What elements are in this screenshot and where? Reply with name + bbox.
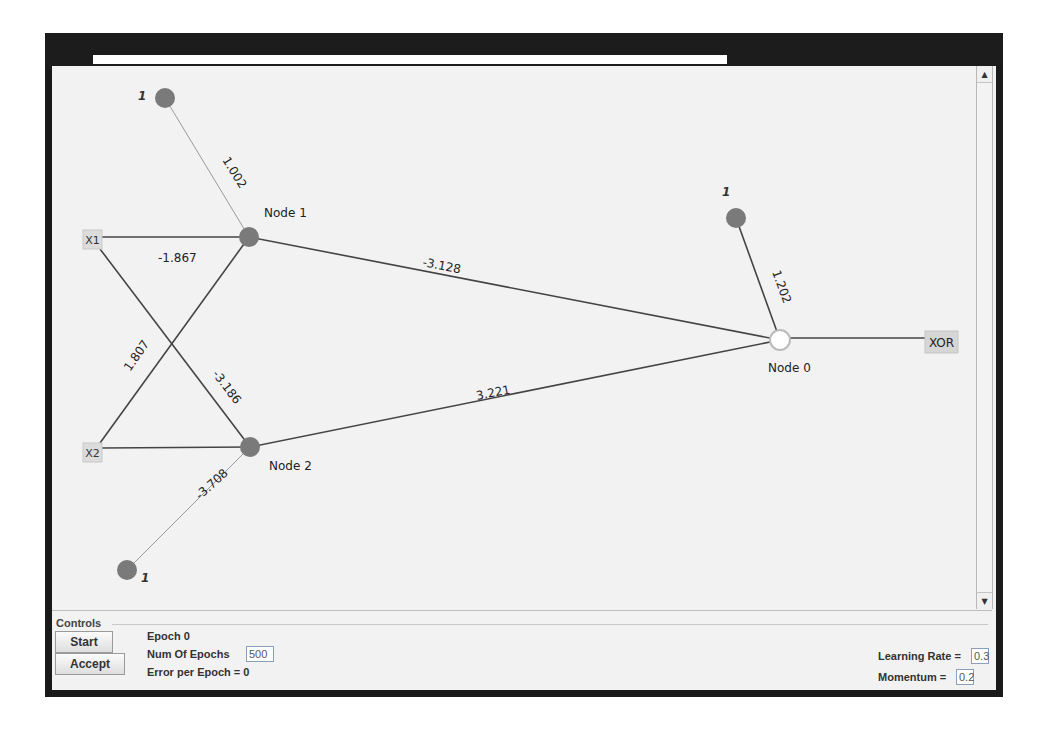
bias-node-bias1[interactable] [155, 88, 175, 108]
start-button[interactable]: Start [55, 631, 113, 653]
edge-x1-node2 [100, 249, 250, 447]
input-label: X2 [85, 447, 100, 460]
weight-label: -1.867 [158, 251, 197, 265]
learning-rate-input[interactable]: 0.3 [971, 648, 989, 664]
edge-node2-node0 [250, 340, 780, 447]
accept-button[interactable]: Accept [55, 653, 125, 675]
controls-title: Controls [56, 617, 104, 629]
bias-label: 1 [138, 89, 146, 103]
weight-label: 3.221 [475, 383, 511, 403]
momentum-label: Momentum = [878, 671, 946, 683]
weight-label: 1.202 [769, 268, 794, 305]
weight-label: 1.807 [121, 338, 152, 374]
title-bar[interactable] [45, 33, 1003, 66]
scroll-down-arrow-icon[interactable]: ▼ [977, 592, 992, 609]
bias-node-bias0[interactable] [726, 208, 746, 228]
weight-label: -3.128 [421, 255, 462, 276]
momentum-input[interactable]: 0.2 [956, 669, 974, 685]
edge-bias2-node2 [127, 447, 250, 570]
network-canvas: 1.002-1.867-3.1861.807-3.708-3.1283.2211… [52, 66, 976, 609]
edge-x2-node2 [102, 447, 250, 448]
app-window: 1.002-1.867-3.1861.807-3.708-3.1283.2211… [45, 33, 1003, 697]
group-border [112, 624, 988, 625]
network-diagram: 1.002-1.867-3.1861.807-3.708-3.1283.2211… [52, 66, 976, 609]
neuron-node2[interactable] [240, 437, 260, 457]
input-label: X1 [85, 234, 100, 247]
edge-node1-node0 [249, 237, 780, 340]
weight-label: -3.708 [193, 466, 231, 502]
bias-label: 1 [722, 185, 730, 199]
neuron-node0[interactable] [770, 330, 790, 350]
content-pane: 1.002-1.867-3.1861.807-3.708-3.1283.2211… [52, 66, 996, 690]
output-label: XOR [929, 336, 954, 350]
scroll-up-arrow-icon[interactable]: ▲ [977, 66, 992, 83]
bias-label: 1 [141, 571, 149, 585]
neuron-node1[interactable] [239, 227, 259, 247]
num-epochs-input[interactable]: 500 [246, 646, 274, 662]
error-per-epoch-label: Error per Epoch = 0 [147, 666, 249, 678]
neuron-label: Node 0 [768, 361, 811, 375]
learning-rate-label: Learning Rate = [878, 650, 961, 662]
weight-label: 1.002 [219, 154, 249, 191]
bias-node-bias2[interactable] [117, 560, 137, 580]
divider [52, 610, 992, 611]
epoch-label: Epoch 0 [147, 630, 190, 642]
neuron-label: Node 1 [264, 206, 307, 220]
title-text-area [93, 55, 727, 64]
num-epochs-label: Num Of Epochs [147, 648, 230, 660]
controls-panel: Controls Start Accept Epoch 0 Num Of Epo… [52, 612, 996, 690]
vertical-scrollbar[interactable]: ▲ ▼ [976, 66, 993, 609]
neuron-label: Node 2 [269, 459, 312, 473]
edge-x2-node1 [100, 237, 249, 443]
